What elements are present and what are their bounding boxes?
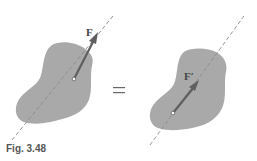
figure-3-48: F F′ Fig. 3.48	[0, 0, 257, 161]
left-force-label: F	[86, 26, 93, 38]
left-diagram: F	[12, 16, 113, 140]
transmissibility-diagram: F F′	[0, 0, 257, 161]
equals-sign	[113, 87, 125, 93]
right-diagram: F′	[150, 16, 244, 145]
right-application-point	[171, 111, 175, 115]
left-rigid-body	[16, 42, 93, 123]
figure-caption: Fig. 3.48	[6, 143, 46, 154]
right-rigid-body	[150, 49, 227, 131]
right-force-label: F′	[184, 70, 194, 82]
left-application-point	[72, 77, 76, 81]
